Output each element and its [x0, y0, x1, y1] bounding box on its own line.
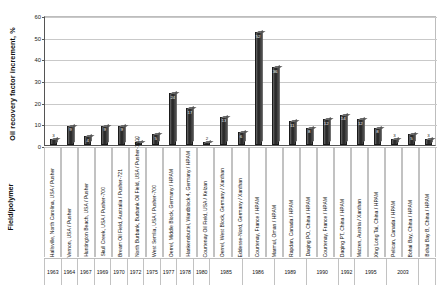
bar-slot: 5 [403, 15, 420, 145]
bar[interactable]: 8 [306, 128, 313, 145]
category-label: Courtenay, France / HPAM [255, 196, 260, 257]
category-label: Oerrel, Middle Block, Germany / HPAM [169, 168, 174, 257]
bar[interactable]: 4 [84, 136, 91, 145]
bar[interactable]: 14 [340, 115, 347, 145]
bar-value-label: 4 [85, 139, 90, 143]
bar-slot: 12 [318, 15, 335, 145]
year-label: 1977 [161, 259, 178, 285]
bar-slot: 3 [420, 15, 437, 145]
category-label: Pelican, Canada / HPAM [391, 200, 396, 257]
category-cell: Matzen, Austria / Xanthan [351, 147, 368, 257]
bar-value-label: 14 [341, 117, 346, 121]
category-label: Oerrel, West Block, Germany / Xanthan [220, 167, 225, 257]
bar-value-label: 8 [375, 130, 380, 134]
year-label: 1967 [78, 259, 95, 285]
year-label: 1986 [243, 259, 275, 285]
bar-slot: 17 [181, 15, 198, 145]
category-label: Daqing PO, China / HPAM [306, 196, 311, 257]
bar-value-label: 3 [51, 134, 56, 138]
category-cell: Pelican, Canada / HPAM [385, 147, 402, 257]
category-label: Bohai Bay B, China / HPAM [425, 193, 430, 257]
bar[interactable]: 17 [186, 108, 193, 145]
bar-slot: 5 [147, 15, 164, 145]
category-label-band: Hallsville, North Carolina, USA / Pusher… [44, 147, 436, 257]
year-label: 1980 [194, 259, 211, 285]
category-label: Courtenay, France / HPAM [323, 196, 328, 257]
chart-figure: Oil recovery factor increment, % Field/p… [0, 0, 445, 307]
bar[interactable]: 12 [357, 119, 364, 145]
bar[interactable]: 3 [50, 139, 57, 146]
bar-value-label: 24 [170, 96, 175, 100]
category-label: Bohai Bay, China / HPAM [408, 199, 413, 258]
year-label: 1963 [44, 259, 62, 285]
category-cell: Huntington Beach, USA / Pusher [78, 147, 95, 257]
plot-area: 0102030405060 39499252417213652361181214… [44, 16, 436, 146]
category-cell: Rapdan, Canada / HPAM [283, 147, 300, 257]
bar[interactable]: 13 [220, 117, 227, 145]
y-tick-label: 60 [21, 14, 41, 20]
category-label: Hankensbuttel, Wardblock 4, Germany / HP… [186, 150, 191, 257]
y-tick-label: 50 [21, 35, 41, 41]
category-label: Hallsville, North Carolina, USA / Pusher [50, 167, 55, 257]
y-axis-title: Oil recovery factor increment, % [8, 18, 20, 150]
bar-slot: 9 [62, 15, 79, 145]
bar-value-label: 12 [358, 122, 363, 126]
category-label: Daqing PT, China / HPAM [340, 198, 345, 257]
bar-slot: 4 [79, 15, 96, 145]
bar-value-label: 17 [187, 111, 192, 115]
bar-slot: 8 [369, 15, 386, 145]
bar[interactable]: 24 [169, 93, 176, 145]
year-label: 1985 [210, 259, 242, 285]
bar[interactable]: 5 [408, 134, 415, 145]
bar[interactable]: 9 [101, 126, 108, 146]
year-axis-band: 1963196419671969197019721975197719781980… [44, 258, 436, 285]
bar[interactable]: 3 [425, 139, 432, 146]
y-tick-label: 30 [21, 79, 41, 85]
year-label: 1970 [111, 259, 128, 285]
bar[interactable]: 52 [255, 32, 262, 145]
bar-slot: 8 [301, 15, 318, 145]
bar[interactable]: 12 [323, 119, 330, 145]
bar[interactable]: 5 [152, 134, 159, 145]
bar-slot: 9 [96, 15, 113, 145]
bar[interactable]: 6 [238, 132, 245, 145]
bar-value-label: 9 [102, 128, 107, 132]
bar-value-label: 8 [307, 130, 312, 134]
category-cell: Bohai Bay B, China / HPAM [419, 147, 436, 257]
bar[interactable]: 8 [374, 128, 381, 145]
category-cell: Bohai Bay, China / HPAM [402, 147, 419, 257]
year-label: 1995 [355, 259, 387, 285]
category-cell: Courtenay, France / HPAM [249, 147, 266, 257]
year-label: 1972 [128, 259, 145, 285]
category-cell: Daqing PT, China / HPAM [334, 147, 351, 257]
category-label: Xing Long Tai, China / HPAM [374, 191, 379, 257]
category-cell: Skull Creek, USA / Pusher-700 [95, 147, 112, 257]
bar-slot: 14 [335, 15, 352, 145]
year-label: 1975 [144, 259, 161, 285]
category-cell: West Semlia, USA / Pusher-700 [146, 147, 163, 257]
bar-slot: 24 [164, 15, 181, 145]
bar[interactable]: 9 [118, 126, 125, 146]
bar[interactable]: 2 [203, 142, 210, 145]
category-cell: Oerrel, Middle Block, Germany / HPAM [163, 147, 180, 257]
category-label: Marmul, Oman / HPAM [272, 204, 277, 257]
bar-value-label: 5 [409, 137, 414, 141]
bar-value-label: 5 [153, 137, 158, 141]
x-axis-title: Field/polymer [6, 172, 18, 242]
bar[interactable]: 3 [391, 139, 398, 146]
category-label: West Semlia, USA / Pusher-700 [152, 184, 157, 257]
category-cell: Eddesse-Nord, Germany / Xanthan [232, 147, 249, 257]
category-cell: Courtenay, France / HPAM [317, 147, 334, 257]
bar-slot: 3 [45, 15, 62, 145]
bar-value-label: 9 [119, 128, 124, 132]
bar[interactable]: 9 [67, 126, 74, 146]
bar[interactable]: 11 [289, 121, 296, 145]
category-label: Bream Oil Field, Australia / Pusher-721 [118, 168, 123, 257]
category-label: Huntington Beach, USA / Pusher [84, 182, 89, 257]
bar[interactable]: 36 [272, 67, 279, 145]
y-tick-label: 0 [21, 144, 41, 150]
bar-slot: 36 [267, 15, 284, 145]
bar-value-label: 13 [221, 119, 226, 123]
year-label: 2003 [387, 259, 419, 285]
category-cell: Bream Oil Field, Australia / Pusher-721 [112, 147, 129, 257]
